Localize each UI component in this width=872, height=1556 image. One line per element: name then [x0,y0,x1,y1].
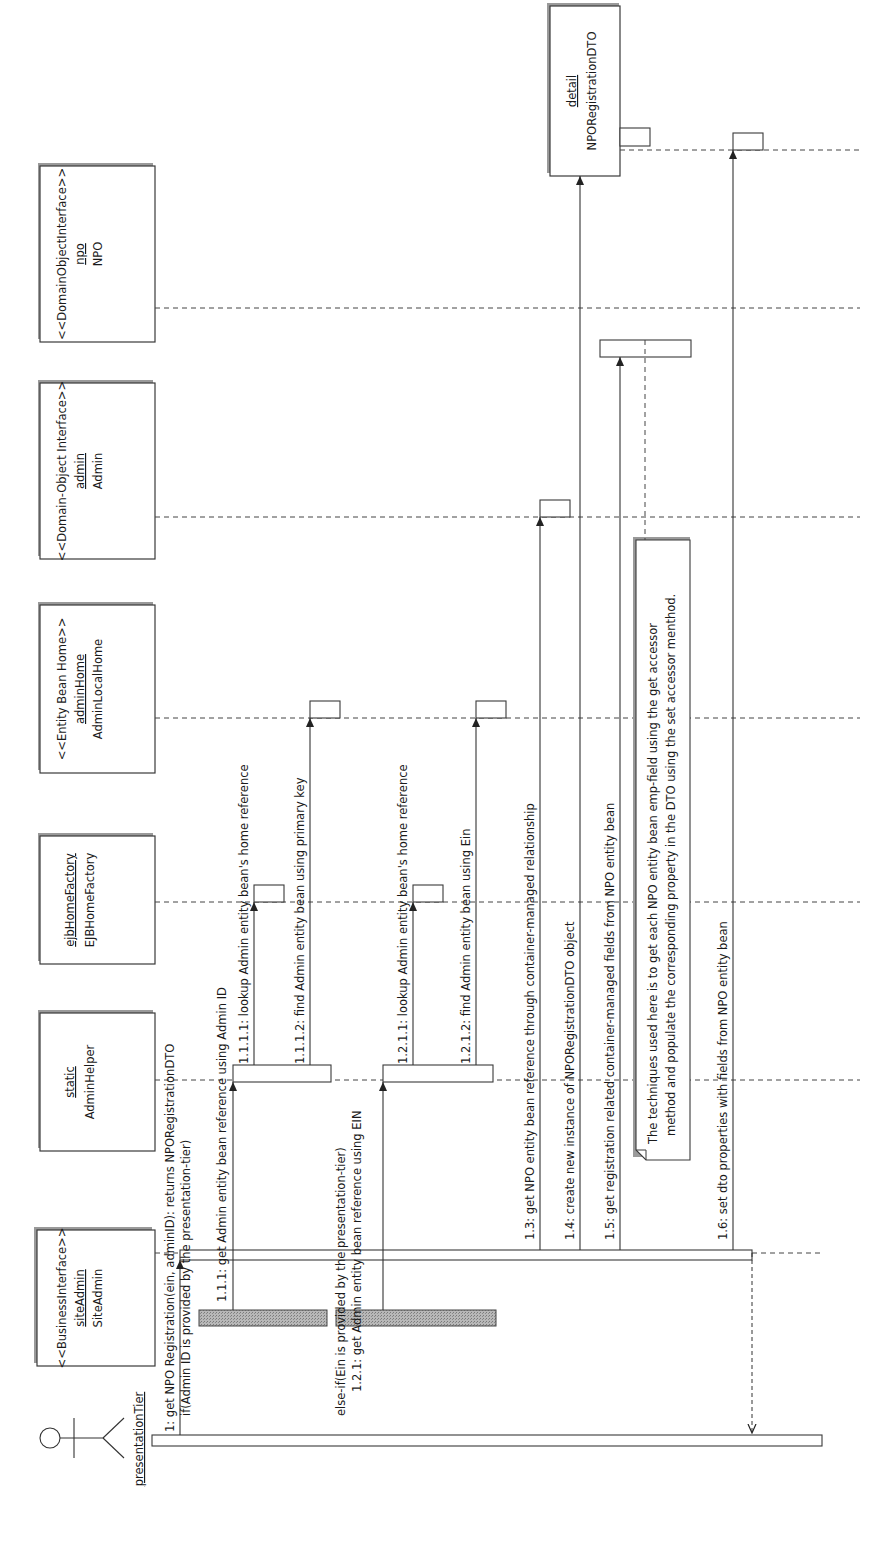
svg-text:<<DomainObjectInterface>>: <<DomainObjectInterface>> [55,168,69,340]
svg-text:detail: detail [565,75,579,107]
svg-text:1.1.1.2: find Admin entity bea: 1.1.1.2: find Admin entity bean using pr… [293,777,307,1064]
svg-text:1.1.1.1: lookup Admin entity b: 1.1.1.1: lookup Admin entity bean's home… [237,764,251,1064]
svg-text:EJBHomeFactory: EJBHomeFactory [83,853,97,948]
svg-text:AdminHelper: AdminHelper [83,1044,97,1119]
svg-text:<<Entity Bean Home>>: <<Entity Bean Home>> [55,618,69,761]
svg-text:if(Admin ID is provided by the: if(Admin ID is provided by the presentat… [179,1140,193,1416]
svg-text:1: get NPO Registration(ein, a: 1: get NPO Registration(ein, adminID): r… [163,1044,177,1432]
admin-home-activation-2 [476,701,506,718]
svg-text:<<Domain-Object Interface>>: <<Domain-Object Interface>> [55,381,69,561]
svg-text:SiteAdmin: SiteAdmin [91,1269,105,1328]
participant-admin-home: <<Entity Bean Home>> adminHome AdminLoca… [38,602,155,773]
presentation-tier-activation [152,1435,822,1446]
ejb-home-factory-activation-1 [254,885,284,902]
svg-text:npo: npo [73,243,87,265]
svg-text:1.2.1.1: lookup Admin entity b: 1.2.1.1: lookup Admin entity bean's home… [396,764,410,1064]
svg-text:NPORegistrationDTO: NPORegistrationDTO [585,32,599,151]
svg-text:The techniques used here is to: The techniques used here is to get each … [646,623,660,1145]
svg-text:1.2.1.2: find Admin entity be: 1.2.1.2: find Admin entity bean using Ei… [459,829,473,1064]
actor-label: presentationTier [132,1392,146,1487]
participant-ejb-home-factory: ejbHomeFactory EJBHomeFactory [38,833,155,964]
actor-presentation-tier: presentationTier [40,1392,146,1487]
participant-admin-helper: static AdminHelper [38,1010,155,1151]
ejb-home-factory-activation-2 [413,885,443,902]
svg-text:siteAdmin: siteAdmin [73,1269,87,1326]
dto-activation-set [733,133,763,150]
participant-admin: <<Domain-Object Interface>> admin Admin [38,380,155,561]
svg-text:NPO: NPO [91,242,105,267]
guard-bar-if [199,1310,327,1326]
admin-helper-activation-2 [383,1065,493,1082]
participant-site-admin: <<BusinessInterface>> siteAdmin SiteAdmi… [34,1227,155,1368]
svg-text:1.1.1: get Admin entity bean r: 1.1.1: get Admin entity bean reference u… [215,987,229,1302]
actor-icon [40,1418,124,1458]
svg-text:AdminLocalHome: AdminLocalHome [91,639,105,739]
admin-home-activation-1 [310,701,340,718]
sequence-diagram: presentationTier <<BusinessInterface>> s… [0,0,872,1556]
participant-npo: <<DomainObjectInterface>> npo NPO [38,163,155,342]
svg-text:static: static [63,1066,77,1098]
admin-helper-activation-1 [233,1065,331,1082]
site-admin-activation [180,1250,752,1260]
dto-activation-create [620,128,650,146]
svg-text:1.4: create new instance of NP: 1.4: create new instance of NPORegistrat… [563,921,577,1240]
svg-text:ejbHomeFactory: ejbHomeFactory [63,853,77,947]
svg-text:Admin: Admin [91,453,105,490]
svg-text:<<BusinessInterface>>: <<BusinessInterface>> [55,1228,69,1369]
note-box: The techniques used here is to get each … [633,340,690,1160]
svg-text:1.5: get registration related: 1.5: get registration related container-… [603,803,617,1240]
admin-activation [540,500,570,517]
svg-text:1.2.1: get Admin entity bean r: 1.2.1: get Admin entity bean reference u… [350,1110,364,1392]
svg-text:adminHome: adminHome [73,654,87,724]
svg-text:admin: admin [73,453,87,489]
svg-text:method and populate the corres: method and populate the corresponding pr… [664,594,678,1136]
svg-text:1.3: get NPO entity bean refer: 1.3: get NPO entity bean reference throu… [523,803,537,1240]
svg-text:1.6: set dto properties with f: 1.6: set dto properties with fields from… [716,921,730,1240]
svg-text:else-if(Ein is provided by the: else-if(Ein is provided by the presentat… [334,1147,348,1416]
participant-npo-registration-dto: detail NPORegistrationDTO [547,3,620,176]
